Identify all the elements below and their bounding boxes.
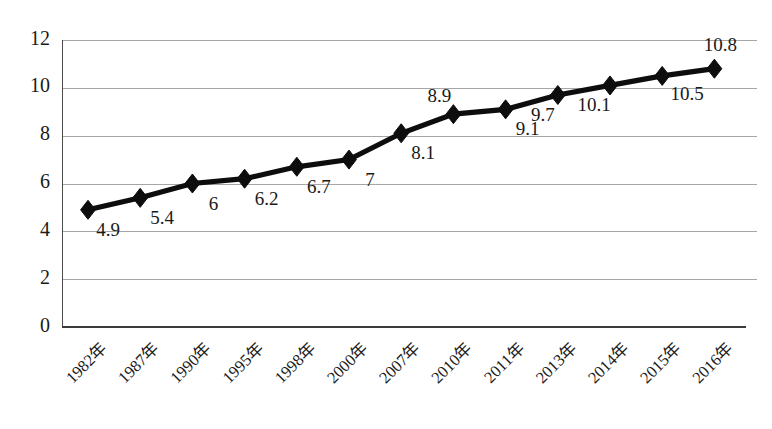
data-point-label: 5.4 <box>150 207 174 228</box>
data-point-label: 10.1 <box>577 94 610 115</box>
y-tick-label: 2 <box>40 266 50 288</box>
data-point-label: 4.9 <box>96 219 120 240</box>
data-point-label: 7 <box>365 169 375 190</box>
data-point-label: 10.5 <box>671 83 704 104</box>
line-chart: 024681012 4.95.466.26.778.18.99.19.710.1… <box>0 0 772 429</box>
y-tick-label: 6 <box>40 170 50 192</box>
y-tick-label: 0 <box>40 314 50 336</box>
data-point-label: 6.2 <box>255 188 279 209</box>
y-tick-label: 8 <box>40 122 50 144</box>
data-point-label: 6 <box>209 193 219 214</box>
y-tick-label: 10 <box>30 74 50 96</box>
y-tick-label: 4 <box>40 218 50 240</box>
chart-figure: 024681012 4.95.466.26.778.18.99.19.710.1… <box>0 0 772 429</box>
data-point-label: 10.8 <box>704 34 737 55</box>
data-point-label: 8.9 <box>428 85 452 106</box>
y-tick-label: 12 <box>30 27 50 49</box>
data-point-label: 6.7 <box>307 176 331 197</box>
data-point-label: 8.1 <box>411 142 435 163</box>
data-point-label: 9.7 <box>531 104 555 125</box>
